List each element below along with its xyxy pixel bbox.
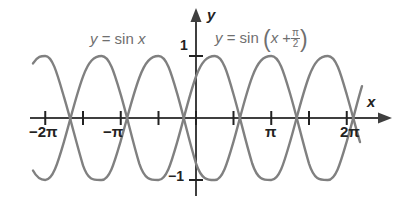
- curve-label-sine: y = sin x: [90, 31, 145, 46]
- curve-label-sine-lhs: y: [90, 30, 98, 47]
- x-tick-label-pi: π: [265, 124, 276, 139]
- sine-graph-figure: y = sin x y = sin (x +π2) y x 1 −1 −2π −…: [0, 0, 396, 202]
- curve-label-shifted-lhs: y: [215, 29, 223, 46]
- y-axis-label: y: [207, 7, 215, 22]
- fraction-denominator: 2: [291, 38, 300, 50]
- x-tick-label-2pi: 2π: [340, 124, 360, 139]
- y-tick-label-1: 1: [180, 38, 188, 52]
- fraction-numerator: π: [291, 28, 300, 39]
- x-tick-label-neg-pi: −π: [103, 124, 123, 139]
- y-tick-label-neg-1: −1: [168, 169, 184, 183]
- close-paren: ): [300, 26, 308, 52]
- x-axis-arrowhead: [378, 113, 392, 124]
- y-axis-arrowhead: [191, 8, 202, 22]
- plot-canvas: [0, 0, 396, 202]
- curve-label-shifted-arg: x: [271, 29, 279, 46]
- open-paren: (: [263, 26, 271, 52]
- curve-label-sine-arg: x: [138, 30, 146, 47]
- x-tick-label-neg-2pi: −2π: [29, 124, 58, 139]
- curve-label-shifted-eq: = sin: [227, 29, 259, 46]
- x-axis-label: x: [367, 94, 375, 109]
- curve-label-sine-shifted: y = sin (x +π2): [215, 28, 308, 51]
- fraction-pi-over-two: π2: [291, 28, 300, 50]
- curve-label-sine-eq: = sin: [102, 30, 134, 47]
- plus-sign: +: [282, 29, 291, 46]
